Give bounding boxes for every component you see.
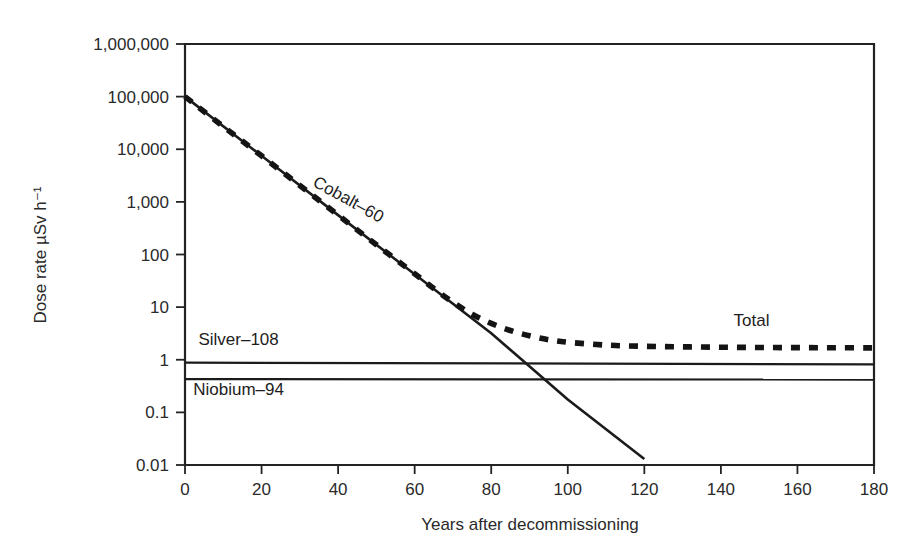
y-tick-label: 10 [150, 298, 169, 317]
x-tick-label: 180 [860, 480, 888, 499]
y-tick-label: 100 [141, 246, 169, 265]
x-tick-label: 160 [783, 480, 811, 499]
y-tick-label: 1 [160, 351, 169, 370]
y-tick-label: 100,000 [108, 88, 169, 107]
x-tick-label: 40 [329, 480, 348, 499]
x-tick-label: 80 [482, 480, 501, 499]
chart-background [0, 0, 923, 560]
x-tick-label: 100 [554, 480, 582, 499]
series-label-niobium-94: Niobium–94 [193, 380, 284, 399]
dose-rate-log-chart: 1,000,000100,00010,0001,0001001010.10.01… [0, 0, 923, 560]
y-tick-label: 0.01 [136, 456, 169, 475]
y-axis-title: Dose rate µSv h⁻¹ [31, 186, 50, 323]
y-tick-label: 0.1 [145, 403, 169, 422]
x-tick-label: 120 [630, 480, 658, 499]
x-tick-label: 140 [707, 480, 735, 499]
y-tick-label: 1,000,000 [93, 35, 169, 54]
series-line-niobium-94 [185, 379, 874, 380]
x-axis-title: Years after decommissioning [421, 515, 639, 534]
x-tick-label: 60 [405, 480, 424, 499]
x-tick-label: 0 [180, 480, 189, 499]
series-label-total: Total [734, 311, 770, 330]
chart-figure: 1,000,000100,00010,0001,0001001010.10.01… [0, 0, 923, 560]
y-tick-label: 1,000 [126, 193, 169, 212]
x-tick-label: 20 [252, 480, 271, 499]
y-tick-label: 10,000 [117, 140, 169, 159]
series-label-silver-108: Silver–108 [198, 330, 278, 349]
